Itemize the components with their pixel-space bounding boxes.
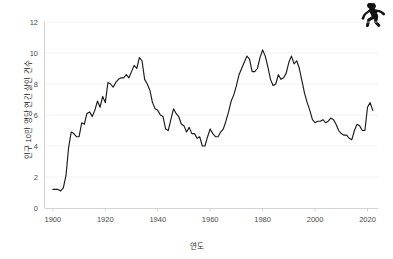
y-axis-title: 인구 10만 명당 연간 살인 건수 (22, 35, 33, 185)
gridlines (45, 22, 378, 177)
x-tick-label: 1920 (97, 215, 114, 224)
x-tick-label: 1940 (149, 215, 166, 224)
y-tick-label: 8 (34, 80, 38, 89)
y-tick-label: 0 (34, 204, 38, 213)
x-tick-label: 1900 (45, 215, 62, 224)
x-tick-labels: 1900192019401960198020002020 (45, 208, 376, 224)
x-axis-title: 연도 (0, 240, 393, 251)
plot-area: 024681012 1900192019401960198020002020 인… (0, 0, 393, 259)
homicide-rate-line (53, 50, 373, 191)
y-tick-label: 6 (34, 111, 38, 120)
x-tick-label: 1960 (202, 215, 219, 224)
x-tick-label: 1980 (254, 215, 271, 224)
y-tick-label: 4 (34, 142, 38, 151)
x-tick-label: 2020 (359, 215, 376, 224)
y-tick-label: 12 (30, 18, 38, 27)
homicide-rate-chart-figure: 024681012 1900192019401960198020002020 인… (0, 0, 393, 259)
chart-svg: 024681012 1900192019401960198020002020 (0, 0, 393, 259)
x-tick-label: 2000 (307, 215, 324, 224)
y-tick-label: 2 (34, 173, 38, 182)
